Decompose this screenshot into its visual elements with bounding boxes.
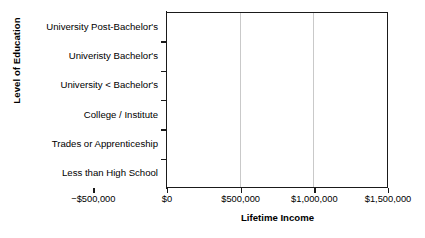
y-axis-tick <box>161 41 167 42</box>
y-axis-tick <box>161 100 167 101</box>
x-axis-tick-label: $1,000,000 <box>291 194 338 204</box>
bar-series <box>0 12 425 188</box>
x-axis-tick-label: $500,000 <box>221 194 260 204</box>
x-axis-tick <box>241 188 242 193</box>
x-axis-tick-label: $0 <box>162 194 172 204</box>
x-axis-tick <box>93 188 94 193</box>
lifetime-income-bar-chart: Level of Education University Post-Bache… <box>0 0 425 238</box>
x-axis-tick-label: $1,500,000 <box>365 194 412 204</box>
x-axis-title: Lifetime Income <box>167 212 388 223</box>
x-axis-tick-label: −$500,000 <box>71 194 115 204</box>
y-axis-tick <box>161 159 167 160</box>
y-axis-tick <box>161 71 167 72</box>
x-axis-tick <box>388 188 389 193</box>
y-axis-tick <box>161 129 167 130</box>
x-axis-tick <box>167 188 168 193</box>
x-axis-tick <box>314 188 315 193</box>
